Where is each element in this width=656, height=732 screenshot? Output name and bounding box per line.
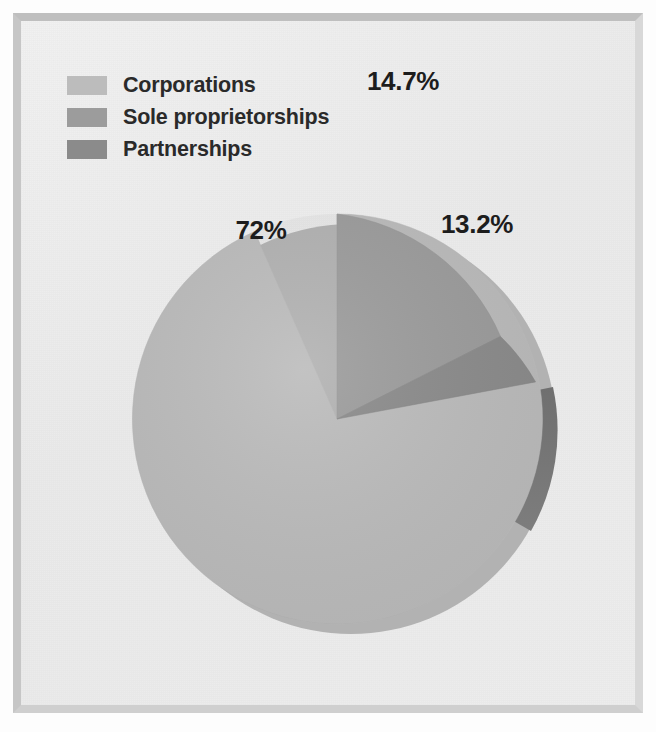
chart-frame: 72% 14.7% 13.2% Corporations Sole propri…	[13, 13, 643, 713]
legend-item-corporations[interactable]: Corporations	[67, 69, 329, 101]
pie-label-partnerships: 13.2%	[441, 209, 513, 240]
legend: Corporations Sole proprietorships Partne…	[67, 69, 329, 165]
pie-slices	[132, 214, 542, 624]
legend-label-corporations: Corporations	[123, 73, 256, 98]
legend-swatch-corporations	[67, 76, 107, 95]
legend-label-partnerships: Partnerships	[123, 137, 252, 162]
legend-item-sole-proprietorships[interactable]: Sole proprietorships	[67, 101, 329, 133]
legend-swatch-partnerships	[67, 140, 107, 159]
legend-label-sole-proprietorships: Sole proprietorships	[123, 105, 329, 130]
pie-label-corporations: 72%	[235, 215, 286, 246]
pie-label-sole-proprietorships: 14.7%	[367, 66, 439, 97]
scanned-page: 72% 14.7% 13.2% Corporations Sole propri…	[0, 0, 656, 732]
pie-face-shading	[132, 214, 542, 624]
legend-swatch-sole-proprietorships	[67, 108, 107, 127]
legend-item-partnerships[interactable]: Partnerships	[67, 133, 329, 165]
